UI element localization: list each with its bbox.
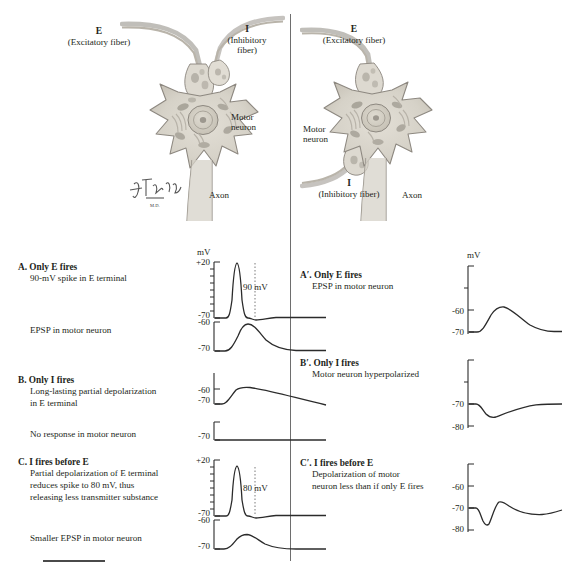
panel-a-sub1: 90-mV spike in E terminal: [30, 272, 188, 284]
panel-c-prime-ylabel-1: -60: [440, 482, 464, 492]
panel-c-sub1c: releasing less transmitter substance: [30, 491, 198, 503]
panel-a-prime-sub1: EPSP in motor neuron: [312, 280, 480, 292]
left-excitatory-caption: (Excitatory fiber): [45, 37, 153, 47]
left-inhibitory-caption-2: fiber): [212, 45, 282, 55]
panel-c-heading: C. I fires before E: [18, 457, 198, 467]
panel-b-prime-ylabel-min: -80: [440, 422, 464, 432]
panel-a-prime-ylabel-max: -60: [440, 306, 464, 316]
right-inhibitory-caption: (Inhibitory fiber): [300, 189, 398, 199]
panel-b-sub1b: in E terminal: [30, 397, 193, 409]
bottom-rule: [43, 560, 105, 562]
panel-a-sub2-block: EPSP in motor neuron: [18, 324, 193, 336]
panel-c-sub2: Smaller EPSP in motor neuron: [30, 532, 198, 544]
panel-c-prime-ylabel-2: -70: [440, 503, 464, 513]
right-motor-neuron-line2: neuron: [303, 134, 328, 144]
panel-a-sub2: EPSP in motor neuron: [30, 324, 193, 336]
panel-c-sub2-block: Smaller EPSP in motor neuron: [18, 532, 198, 544]
left-inhibitory-letter: I: [212, 24, 282, 35]
panel-c-bot-ylabel-max: -60: [186, 515, 210, 525]
panel-a-heading: A. Only E fires: [18, 262, 188, 272]
panel-c-prime-trace: [464, 460, 564, 540]
panel-c-bot-ylabel-min: -70: [186, 541, 210, 551]
panel-a-bottom-trace: [210, 320, 328, 356]
left-excitatory-label: E (Excitatory fiber): [45, 26, 153, 47]
svg-text:M.D.: M.D.: [150, 203, 160, 208]
right-excitatory-caption: (Excitatory fiber): [300, 35, 408, 45]
panel-b-prime-ylabel-max: -70: [440, 399, 464, 409]
panel-c: C. I fires before E Partial depolarizati…: [18, 457, 198, 504]
panel-b-bottom-trace: [210, 420, 328, 450]
panel-a-bot-ylabel-min: -70: [186, 343, 210, 353]
left-motor-neuron-line1: Motor: [231, 112, 256, 122]
panel-b-bot-ylabel: -70: [186, 431, 210, 441]
right-motor-neuron-line1: Motor: [303, 124, 328, 134]
panel-a-prime-heading: A′. Only E fires: [300, 270, 480, 280]
right-inhibitory-letter: I: [300, 178, 398, 189]
panel-b-top-ylabel-min: -70: [186, 395, 210, 405]
panel-b-prime: B′. Only I fires Motor neuron hyperpolar…: [300, 358, 480, 380]
panel-a-prime-trace: [464, 262, 564, 342]
panel-c-top-ylabel-max: +20: [186, 455, 210, 465]
panel-b-heading: B. Only I fires: [18, 375, 193, 385]
panel-b-prime-trace: [464, 356, 564, 436]
left-mv-unit: mV: [197, 247, 211, 257]
left-motor-neuron-line2: neuron: [231, 122, 256, 132]
panel-b-sub2-block: No response in motor neuron: [18, 428, 193, 440]
right-mv-unit: mV: [467, 250, 481, 260]
left-excitatory-letter: E: [45, 26, 153, 37]
panel-b-top-ylabel-max: -60: [186, 385, 210, 395]
panel-a-prime: A′. Only E fires EPSP in motor neuron: [300, 270, 480, 292]
panel-a-prime-ylabel-min: -70: [440, 327, 464, 337]
panel-b-prime-sub1: Motor neuron hyperpolarized: [312, 368, 480, 380]
panel-b-sub1: Long-lasting partial depolarization: [30, 385, 193, 397]
panel-c-prime-heading: C′. I fires before E: [300, 458, 480, 468]
right-axon-label: Axon: [402, 190, 422, 200]
panel-c-prime-ylabel-3: -80: [440, 524, 464, 534]
panel-a: A. Only E fires 90-mV spike in E termina…: [18, 262, 188, 284]
left-inhibitory-caption-1: (Inhibitory: [212, 35, 282, 45]
right-excitatory-label: E (Excitatory fiber): [300, 24, 408, 45]
right-axon-text: Axon: [402, 190, 422, 200]
panel-b-prime-heading: B′. Only I fires: [300, 358, 480, 368]
left-axon-text: Axon: [209, 190, 229, 200]
figure-page: M.D. E (Excitatory fiber) I (Inhibitory …: [0, 0, 567, 570]
right-motor-neuron-label: Motor neuron: [303, 124, 328, 145]
panel-c-sub1b: reduces spike to 80 mV, thus: [30, 479, 198, 491]
panel-c-prime-sub1: Depolarization of motor: [312, 468, 480, 480]
panel-a-bot-ylabel-max: -60: [186, 317, 210, 327]
panel-c-bottom-trace: [210, 518, 328, 554]
panel-b-sub2: No response in motor neuron: [30, 428, 193, 440]
right-excitatory-letter: E: [300, 24, 408, 35]
panel-b: B. Only I fires Long-lasting partial dep…: [18, 375, 193, 409]
left-axon-label: Axon: [209, 190, 229, 200]
right-inhibitory-label: I (Inhibitory fiber): [300, 178, 398, 199]
left-motor-neuron-label: Motor neuron: [231, 112, 256, 133]
panel-c-sub1: Partial depolarization of E terminal: [30, 467, 198, 479]
panel-a-top-ylabel-max: +20: [186, 257, 210, 267]
left-inhibitory-label: I (Inhibitory fiber): [212, 24, 282, 56]
